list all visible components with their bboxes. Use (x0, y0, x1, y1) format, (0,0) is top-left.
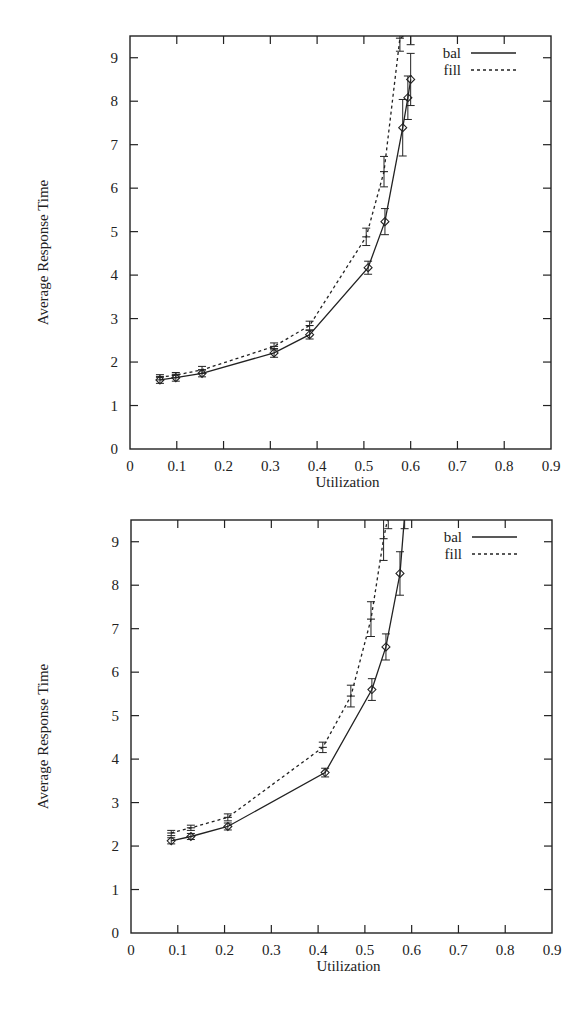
y-tick-label: 9 (111, 50, 119, 66)
x-tick-label: 0 (127, 942, 135, 958)
x-tick-label: 0.5 (356, 942, 375, 958)
x-tick-label: 0.9 (542, 458, 561, 474)
y-tick-label: 7 (112, 621, 120, 637)
x-tick-label: 0 (126, 458, 134, 474)
x-tick-label: 0.6 (402, 942, 421, 958)
chart-bottom-svg: 00.10.20.30.40.50.60.70.80.90123456789Ut… (0, 484, 587, 1013)
y-tick-label: 1 (112, 882, 120, 898)
y-tick-label: 4 (111, 267, 119, 283)
x-tick-label: 0.8 (495, 458, 514, 474)
series-line-bal (160, 80, 411, 380)
x-tick-label: 0.7 (449, 942, 468, 958)
x-tick-label: 0.5 (355, 458, 374, 474)
y-axis-label: Average Response Time (35, 663, 51, 809)
x-tick-label: 0.4 (309, 942, 328, 958)
x-tick-label: 0.8 (496, 942, 515, 958)
legend-label-bal: bal (443, 45, 461, 61)
x-tick-label: 0.3 (262, 942, 281, 958)
plot-frame (131, 520, 552, 933)
y-tick-label: 0 (111, 441, 119, 457)
y-tick-label: 7 (111, 137, 119, 153)
y-tick-label: 8 (111, 93, 119, 109)
x-tick-label: 0.3 (261, 458, 280, 474)
series-line-fill (171, 516, 388, 833)
x-tick-label: 0.4 (308, 458, 327, 474)
y-tick-label: 5 (112, 708, 120, 724)
x-tick-label: 0.6 (401, 458, 420, 474)
legend-label-fill: fill (444, 62, 462, 78)
x-tick-label: 0.2 (215, 942, 234, 958)
x-tick-label: 0.1 (168, 942, 187, 958)
y-tick-label: 9 (112, 534, 120, 550)
y-tick-label: 8 (112, 577, 120, 593)
x-tick-label: 0.9 (543, 942, 562, 958)
x-axis-label: Utilization (316, 958, 381, 974)
y-tick-label: 3 (111, 311, 119, 327)
data-point-bal (401, 512, 409, 520)
legend-label-bal: bal (444, 529, 462, 545)
y-tick-label: 0 (112, 925, 120, 941)
y-tick-label: 6 (112, 664, 120, 680)
y-axis-label: Average Response Time (35, 179, 51, 325)
y-tick-label: 5 (111, 224, 119, 240)
y-tick-label: 1 (111, 398, 119, 414)
y-tick-label: 3 (112, 795, 120, 811)
series-line-fill (160, 32, 411, 378)
y-tick-label: 2 (111, 354, 119, 370)
y-tick-label: 4 (112, 751, 120, 767)
x-tick-label: 0.2 (214, 458, 233, 474)
chart-top-svg: 00.10.20.30.40.50.60.70.80.90123456789Ut… (0, 0, 587, 500)
y-tick-label: 2 (112, 838, 120, 854)
x-tick-label: 0.7 (448, 458, 467, 474)
y-tick-label: 6 (111, 180, 119, 196)
chart-bottom: 00.10.20.30.40.50.60.70.80.90123456789Ut… (0, 484, 587, 1013)
x-tick-label: 0.1 (167, 458, 186, 474)
legend-label-fill: fill (445, 546, 463, 562)
plot-frame (130, 36, 551, 449)
chart-top: 00.10.20.30.40.50.60.70.80.90123456789Ut… (0, 0, 587, 500)
